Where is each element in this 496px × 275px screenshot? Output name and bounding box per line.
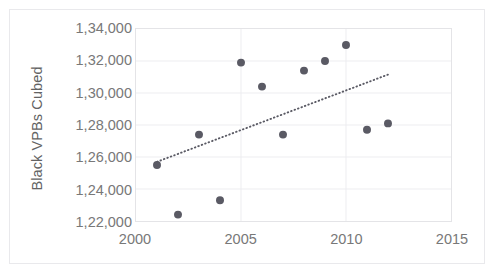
horizontal-gridlines <box>136 61 451 189</box>
scatter-point <box>321 57 329 65</box>
scatter-point <box>174 211 182 219</box>
chart-figure: Black VPBs Cubed 1,22,0001,24,0001,26,00… <box>0 0 496 275</box>
x-tick-label: 2005 <box>211 230 271 248</box>
scatter-point <box>195 131 203 139</box>
scatter-point <box>258 83 266 91</box>
x-tick-label: 2015 <box>422 230 482 248</box>
scatter-point <box>237 59 245 67</box>
x-tick-label: 2010 <box>316 230 376 248</box>
scatter-point <box>279 131 287 139</box>
scatter-point <box>342 41 350 49</box>
scatter-point <box>363 126 371 134</box>
plot-svg <box>136 29 451 221</box>
scatter-point <box>153 161 161 169</box>
scatter-point <box>300 67 308 75</box>
scatter-point <box>384 119 392 127</box>
scatter-point <box>216 196 224 204</box>
plot-area <box>135 28 452 222</box>
x-tick-label: 2000 <box>105 230 165 248</box>
scatter-points <box>153 41 392 219</box>
trendline <box>157 74 390 162</box>
trendline-segment <box>157 74 390 162</box>
